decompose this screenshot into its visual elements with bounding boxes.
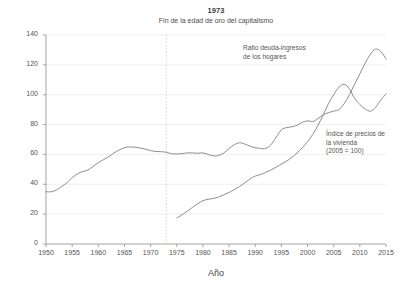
y-tick-label-60: 60 (12, 149, 38, 156)
x-tick-label-1985: 1985 (215, 249, 243, 256)
x-tick-label-1970: 1970 (137, 249, 165, 256)
y-tick-label-80: 80 (12, 120, 38, 127)
series-line-debt-income-ratio (46, 49, 386, 192)
x-tick-label-2000: 2000 (294, 249, 322, 256)
y-tick-label-140: 140 (12, 30, 38, 37)
x-tick-label-1995: 1995 (267, 249, 295, 256)
gridlines-group (46, 35, 386, 214)
x-tick-label-2010: 2010 (346, 249, 374, 256)
series-label-debt-line2: de los hogares (243, 53, 306, 62)
x-tick-label-1960: 1960 (84, 249, 112, 256)
y-tick-label-40: 40 (12, 179, 38, 186)
series-label-debt: Ratio deuda-ingresos de los hogares (243, 44, 306, 61)
y-tick-label-120: 120 (12, 60, 38, 67)
series-label-housing-line2: la vivienda (326, 139, 385, 148)
chart-figure: 1973 Fin de la edad de oro del capitalis… (0, 0, 413, 294)
x-tick-label-1950: 1950 (32, 249, 60, 256)
x-tick-label-1980: 1980 (189, 249, 217, 256)
x-tick-label-1965: 1965 (110, 249, 138, 256)
y-tick-label-20: 20 (12, 209, 38, 216)
series-label-housing-line1: Índice de precios de (326, 130, 385, 139)
x-tick-label-1990: 1990 (241, 249, 269, 256)
x-tick-label-1955: 1955 (58, 249, 86, 256)
y-tick-label-100: 100 (12, 90, 38, 97)
x-tick-label-2015: 2015 (372, 249, 400, 256)
x-tick-label-2005: 2005 (320, 249, 348, 256)
y-tick-label-0: 0 (12, 239, 38, 246)
series-label-housing: Índice de precios de la vivienda (2005 =… (326, 130, 385, 156)
series-label-housing-line3: (2005 = 100) (326, 147, 385, 156)
series-label-debt-line1: Ratio deuda-ingresos (243, 44, 306, 53)
x-tick-label-1975: 1975 (163, 249, 191, 256)
x-axis-label: Año (46, 268, 386, 278)
